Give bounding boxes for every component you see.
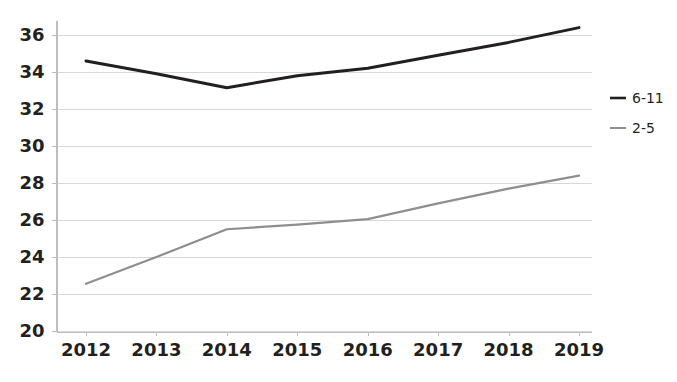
grid-lines xyxy=(57,36,593,332)
legend: 6-112-5 xyxy=(610,90,664,136)
x-tick-label-2018: 2018 xyxy=(484,339,534,360)
y-tick-label-26: 26 xyxy=(19,209,44,230)
x-tick-label-2017: 2017 xyxy=(413,339,463,360)
x-tick-label-2016: 2016 xyxy=(343,339,393,360)
y-tick-label-20: 20 xyxy=(19,320,44,341)
x-tick-label-2012: 2012 xyxy=(61,339,111,360)
legend-label-6-11: 6-11 xyxy=(632,90,664,106)
y-tick-label-36: 36 xyxy=(19,24,44,45)
x-axis-tick-labels: 20122013201420152016201720182019 xyxy=(61,339,604,360)
y-tick-label-24: 24 xyxy=(19,246,44,267)
legend-item-6-11[interactable]: 6-11 xyxy=(610,90,664,106)
y-tick-label-28: 28 xyxy=(19,172,44,193)
x-tick-label-2014: 2014 xyxy=(202,339,252,360)
legend-item-2-5[interactable]: 2-5 xyxy=(610,120,655,136)
line-chart: 202224262830323436 201220132014201520162… xyxy=(0,0,677,382)
data-series-group xyxy=(86,28,579,284)
legend-label-2-5: 2-5 xyxy=(632,120,655,136)
series-line-6-11 xyxy=(86,28,579,88)
chart-svg: 202224262830323436 201220132014201520162… xyxy=(0,0,677,382)
y-axis-tick-labels: 202224262830323436 xyxy=(19,24,44,341)
x-tick-label-2013: 2013 xyxy=(131,339,181,360)
series-line-2-5 xyxy=(86,176,579,284)
y-tick-label-34: 34 xyxy=(19,61,44,82)
x-tick-label-2019: 2019 xyxy=(554,339,604,360)
axis-ticks xyxy=(52,36,580,337)
y-tick-label-30: 30 xyxy=(19,135,44,156)
x-tick-label-2015: 2015 xyxy=(272,339,322,360)
y-tick-label-22: 22 xyxy=(19,283,44,304)
y-tick-label-32: 32 xyxy=(19,98,44,119)
